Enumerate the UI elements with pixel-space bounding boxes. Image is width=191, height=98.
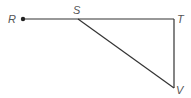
geometry-diagram: R S T V	[0, 0, 191, 98]
segment-s-v	[78, 19, 174, 88]
label-s: S	[73, 4, 81, 16]
point-r-dot	[21, 17, 25, 21]
label-t: T	[177, 13, 185, 25]
label-v: V	[176, 84, 185, 96]
label-r: R	[8, 13, 16, 25]
